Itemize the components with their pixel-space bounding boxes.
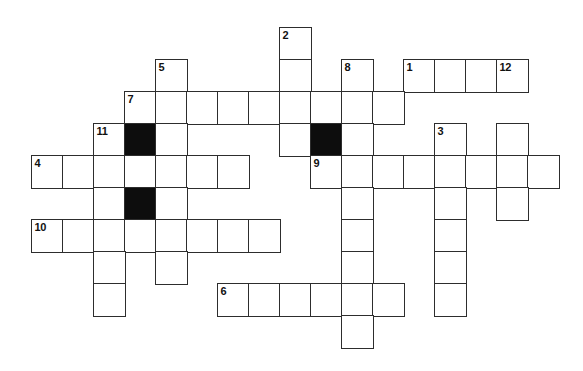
crossword-cell[interactable]: 10 <box>31 219 64 253</box>
crossword-cell[interactable] <box>279 123 312 157</box>
crossword-cell[interactable] <box>155 155 188 189</box>
crossword-cell[interactable] <box>248 219 281 253</box>
clue-number: 6 <box>221 285 227 298</box>
crossword-cell[interactable] <box>155 251 188 285</box>
crossword-black-cell <box>124 123 157 157</box>
clue-number: 2 <box>283 29 289 42</box>
crossword-cell[interactable] <box>372 91 405 125</box>
crossword-cell[interactable] <box>341 315 374 349</box>
clue-number: 7 <box>128 93 134 106</box>
crossword-cell[interactable] <box>186 91 219 125</box>
crossword-grid: 258112711349106 <box>0 0 583 371</box>
clue-number: 9 <box>314 157 320 170</box>
crossword-cell[interactable] <box>248 283 281 317</box>
crossword-cell[interactable]: 2 <box>279 27 312 61</box>
crossword-cell[interactable] <box>124 155 157 189</box>
crossword-cell[interactable] <box>155 219 188 253</box>
crossword-cell[interactable]: 6 <box>217 283 250 317</box>
crossword-cell[interactable] <box>434 219 467 253</box>
crossword-cell[interactable]: 4 <box>31 155 64 189</box>
crossword-cell[interactable] <box>341 187 374 221</box>
crossword-cell[interactable] <box>434 283 467 317</box>
crossword-cell[interactable] <box>93 219 126 253</box>
crossword-cell[interactable] <box>186 219 219 253</box>
crossword-cell[interactable] <box>434 251 467 285</box>
crossword-cell[interactable] <box>217 91 250 125</box>
crossword-cell[interactable] <box>93 251 126 285</box>
crossword-cell[interactable]: 7 <box>124 91 157 125</box>
crossword-cell[interactable] <box>93 283 126 317</box>
crossword-cell[interactable] <box>155 91 188 125</box>
crossword-black-cell <box>310 123 343 157</box>
crossword-black-cell <box>124 187 157 221</box>
crossword-cell[interactable] <box>310 283 343 317</box>
crossword-puzzle: 258112711349106 <box>0 0 583 371</box>
crossword-cell[interactable] <box>186 155 219 189</box>
crossword-cell[interactable] <box>155 123 188 157</box>
clue-number: 4 <box>35 157 41 170</box>
crossword-cell[interactable]: 12 <box>496 59 529 93</box>
clue-number: 1 <box>407 61 413 74</box>
crossword-cell[interactable] <box>310 91 343 125</box>
clue-number: 8 <box>345 61 351 74</box>
clue-number: 3 <box>438 125 444 138</box>
crossword-cell[interactable] <box>341 91 374 125</box>
crossword-cell[interactable]: 3 <box>434 123 467 157</box>
clue-number: 11 <box>97 125 108 138</box>
crossword-cell[interactable] <box>403 155 436 189</box>
crossword-cell[interactable]: 9 <box>310 155 343 189</box>
crossword-cell[interactable] <box>434 155 467 189</box>
crossword-cell[interactable] <box>496 155 529 189</box>
crossword-cell[interactable] <box>279 59 312 93</box>
crossword-cell[interactable]: 11 <box>93 123 126 157</box>
crossword-cell[interactable] <box>217 155 250 189</box>
clue-number: 5 <box>159 61 165 74</box>
crossword-cell[interactable] <box>279 91 312 125</box>
crossword-cell[interactable] <box>434 187 467 221</box>
crossword-cell[interactable] <box>93 187 126 221</box>
clue-number: 10 <box>35 221 47 234</box>
crossword-cell[interactable] <box>341 155 374 189</box>
crossword-cell[interactable] <box>279 283 312 317</box>
crossword-cell[interactable]: 8 <box>341 59 374 93</box>
crossword-cell[interactable] <box>124 219 157 253</box>
crossword-cell[interactable] <box>217 219 250 253</box>
crossword-cell[interactable] <box>341 283 374 317</box>
crossword-cell[interactable] <box>341 219 374 253</box>
crossword-cell[interactable] <box>496 187 529 221</box>
crossword-cell[interactable] <box>527 155 560 189</box>
crossword-cell[interactable] <box>434 59 467 93</box>
crossword-cell[interactable] <box>155 187 188 221</box>
crossword-cell[interactable] <box>372 283 405 317</box>
crossword-cell[interactable] <box>465 59 498 93</box>
crossword-cell[interactable] <box>341 123 374 157</box>
crossword-cell[interactable] <box>248 91 281 125</box>
crossword-cell[interactable] <box>93 155 126 189</box>
crossword-cell[interactable]: 1 <box>403 59 436 93</box>
clue-number: 12 <box>500 61 512 74</box>
crossword-cell[interactable] <box>341 251 374 285</box>
crossword-cell[interactable] <box>496 123 529 157</box>
crossword-cell[interactable] <box>62 219 95 253</box>
crossword-cell[interactable] <box>465 155 498 189</box>
crossword-cell[interactable] <box>372 155 405 189</box>
crossword-cell[interactable]: 5 <box>155 59 188 93</box>
crossword-cell[interactable] <box>62 155 95 189</box>
